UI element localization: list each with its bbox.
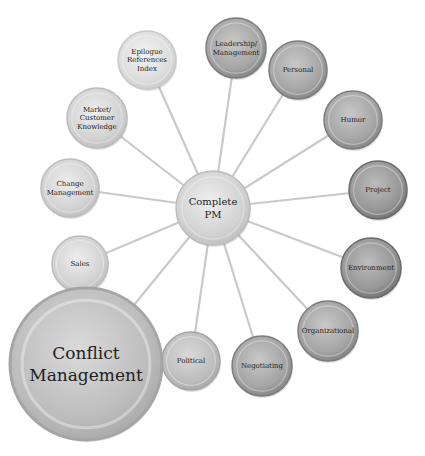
node-label: Environment [348,264,394,272]
node-label: Humor [341,116,366,124]
node-leadership: Leadership/Management [206,18,267,80]
nodes: EpilogueReferencesIndexLeadership/Manage… [10,18,408,442]
node-conflict: ConflictManagement [10,288,163,442]
node-label: Market/CustomerKnowledge [77,106,116,132]
node-epilogue: EpilogueReferencesIndex [118,31,177,91]
hub-diagram: EpilogueReferencesIndexLeadership/Manage… [0,0,425,456]
node-label: Sales [71,260,90,268]
node-label: Leadership/Management [213,40,260,57]
node-humor: Humor [324,91,383,151]
node-negotiating: Negotiating [232,336,293,398]
node-political: Political [162,332,221,392]
node-project: Project [349,161,408,221]
node-sales: Sales [52,236,109,294]
node-label: Project [365,186,391,194]
node-market: Market/CustomerKnowledge [67,88,128,150]
node-change: ChangeManagement [41,159,100,219]
node-center-complete-pm: CompletePM [176,171,251,247]
node-organizational: Organizational [298,301,359,363]
node-label: Political [177,357,206,365]
node-personal: Personal [269,41,328,101]
node-environment: Environment [341,238,402,300]
node-label: Personal [283,66,314,74]
node-label: Organizational [302,327,355,335]
node-label: Negotiating [241,362,284,370]
